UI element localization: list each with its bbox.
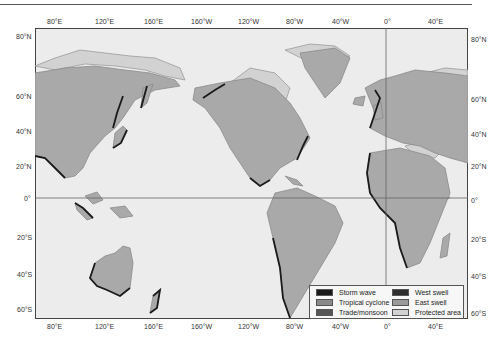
top-rule <box>0 4 472 5</box>
left-axis-label: 60°S <box>17 306 32 313</box>
map-legend: Storm wave Tropical cyclone Trade/monsoo… <box>309 285 464 319</box>
top-axis-label: 0° <box>384 18 391 25</box>
top-axis-label: 80°E <box>47 18 62 25</box>
bottom-axis-label: 160°W <box>191 323 212 330</box>
swatch-tropical-cyclone <box>316 299 333 306</box>
left-axis-label: 60°N <box>16 93 32 100</box>
right-axis-label: 40°N <box>471 131 487 138</box>
left-axis-label: 20°N <box>16 163 32 170</box>
bottom-axis-label: 0° <box>384 323 391 330</box>
right-axis-label: 20°S <box>471 236 486 243</box>
top-axis-label: 160°W <box>191 18 212 25</box>
world-map <box>35 28 468 319</box>
legend-label: Tropical cyclone <box>339 299 389 306</box>
legend-label: East swell <box>415 299 447 306</box>
bottom-axis-label: 40°E <box>428 323 443 330</box>
top-axis-label: 40°W <box>332 18 349 25</box>
legend-item-storm-wave: Storm wave <box>316 288 376 297</box>
legend-label: Storm wave <box>339 289 376 296</box>
bottom-axis-label: 120°E <box>95 323 114 330</box>
bottom-axis-label: 80°W <box>286 323 303 330</box>
top-axis-label: 120°W <box>238 18 259 25</box>
left-axis-label: 40°N <box>16 128 32 135</box>
top-axis-label: 120°E <box>95 18 114 25</box>
right-axis-label: 40°S <box>471 273 486 280</box>
right-axis-label: 80°N <box>471 36 487 43</box>
right-axis-label: 0° <box>471 197 478 204</box>
left-axis-label: 40°S <box>17 271 32 278</box>
legend-label: West swell <box>415 289 448 296</box>
right-axis-label: 20°N <box>471 163 487 170</box>
legend-label: Trade/monsoon <box>339 309 388 316</box>
top-axis-label: 40°E <box>428 18 443 25</box>
swatch-storm-wave <box>316 289 333 296</box>
left-axis-label: 80°N <box>16 33 32 40</box>
swatch-west-swell <box>392 289 409 296</box>
legend-item-west-swell: West swell <box>392 288 448 297</box>
left-axis-label: 20°S <box>17 234 32 241</box>
swatch-trade-monsoon <box>316 309 333 316</box>
swatch-east-swell <box>392 299 409 306</box>
legend-item-tropical-cyclone: Tropical cyclone <box>316 298 389 307</box>
legend-item-east-swell: East swell <box>392 298 447 307</box>
top-axis-label: 160°E <box>144 18 163 25</box>
left-axis-label: 0° <box>24 195 31 202</box>
swatch-protected-area <box>392 309 409 316</box>
bottom-axis-label: 120°W <box>238 323 259 330</box>
top-axis-label: 80°W <box>286 18 303 25</box>
legend-item-protected-area: Protected area <box>392 308 461 317</box>
legend-label: Protected area <box>415 309 461 316</box>
legend-item-trade-monsoon: Trade/monsoon <box>316 308 388 317</box>
bottom-axis-label: 160°E <box>144 323 163 330</box>
right-axis-label: 60°N <box>471 96 487 103</box>
bottom-axis-label: 80°E <box>47 323 62 330</box>
bottom-axis-label: 40°W <box>332 323 349 330</box>
right-axis-label: 60°S <box>471 310 486 317</box>
land-masses <box>35 48 468 318</box>
